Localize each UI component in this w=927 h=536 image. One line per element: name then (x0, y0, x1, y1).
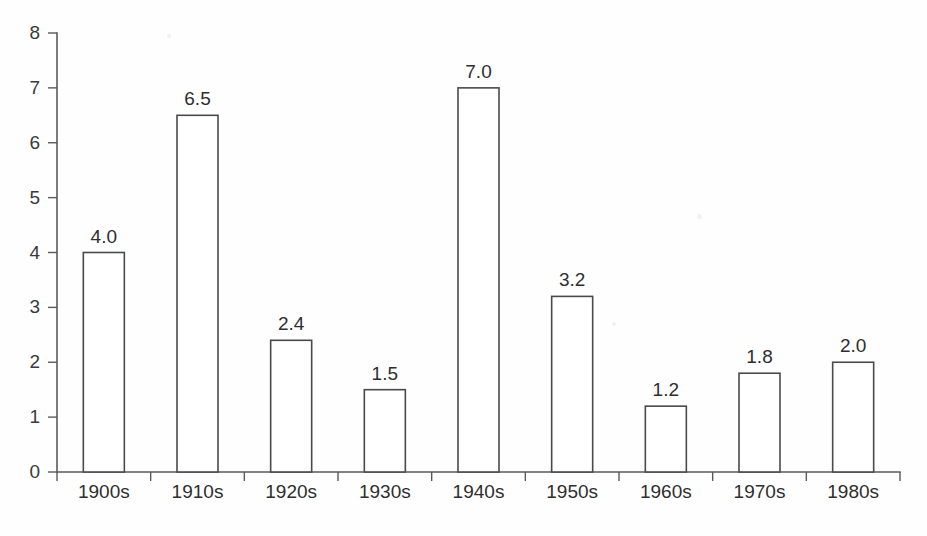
y-tick-label: 0 (29, 461, 40, 482)
x-tick-label: 1950s (546, 481, 598, 502)
x-tick-label: 1960s (640, 481, 692, 502)
bar-value-label: 6.5 (184, 88, 210, 109)
x-tick-label: 1940s (453, 481, 505, 502)
y-tick-label: 7 (29, 77, 40, 98)
bar-value-label: 2.0 (840, 335, 866, 356)
x-tick-label: 1970s (734, 481, 786, 502)
y-tick-label: 1 (29, 406, 40, 427)
bar-value-label: 1.8 (746, 346, 772, 367)
bar-value-label: 3.2 (559, 269, 585, 290)
y-tick-label: 2 (29, 351, 40, 372)
bar (739, 373, 780, 472)
bar (271, 340, 312, 472)
bar-value-label: 4.0 (91, 226, 117, 247)
x-tick-label: 1920s (265, 481, 317, 502)
bar-value-label: 7.0 (465, 61, 491, 82)
bar-value-label: 1.5 (372, 363, 398, 384)
bar-value-label: 1.2 (653, 379, 679, 400)
bar-value-label: 2.4 (278, 313, 305, 334)
x-tick-label: 1930s (359, 481, 411, 502)
x-tick-label: 1980s (827, 481, 879, 502)
bar (177, 115, 218, 472)
bar (458, 88, 499, 472)
y-tick-label: 6 (29, 132, 40, 153)
bar-chart-figure: 012345678 4.06.52.41.57.03.21.21.82.0 19… (0, 0, 927, 536)
bars-series (83, 88, 873, 472)
x-tick-label: 1900s (78, 481, 130, 502)
x-axis-tick-labels: 1900s1910s1920s1930s1940s1950s1960s1970s… (78, 481, 879, 502)
bar (83, 253, 124, 473)
bar (364, 390, 405, 472)
y-tick-label: 4 (29, 242, 40, 263)
bar (552, 296, 593, 472)
chart-canvas: 012345678 4.06.52.41.57.03.21.21.82.0 19… (0, 0, 927, 536)
bar (833, 362, 874, 472)
y-tick-label: 3 (29, 296, 40, 317)
bar (645, 406, 686, 472)
y-axis: 012345678 (29, 22, 57, 482)
y-tick-label: 8 (29, 22, 40, 43)
x-tick-label: 1910s (172, 481, 224, 502)
y-tick-label: 5 (29, 187, 40, 208)
